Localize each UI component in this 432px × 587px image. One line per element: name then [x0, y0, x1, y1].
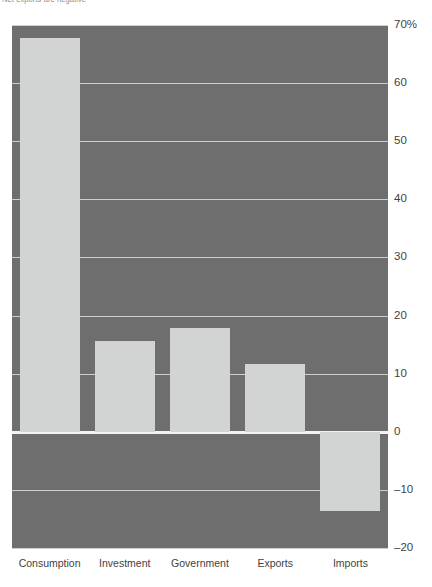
y-axis-label: 0 [394, 426, 400, 438]
y-axis-label: 30 [394, 251, 407, 263]
x-axis-label-investment: Investment [87, 558, 162, 569]
gridline [12, 548, 388, 549]
y-axis-label: 70% [394, 19, 417, 31]
y-axis-label: –20 [394, 542, 413, 554]
y-axis-label: 10 [394, 368, 407, 380]
gridline [12, 25, 388, 26]
x-axis-label-imports: Imports [313, 558, 388, 569]
bar-chart: 70%6050403020100–10–20 ConsumptionInvest… [0, 0, 432, 587]
bar-government [170, 328, 230, 432]
bar-imports [320, 432, 380, 512]
bar-investment [95, 341, 155, 432]
bar-exports [245, 364, 305, 432]
plot-area [12, 25, 388, 548]
x-axis-label-government: Government [162, 558, 237, 569]
y-axis-label: 20 [394, 310, 407, 322]
y-axis-label: 50 [394, 135, 407, 147]
bar-consumption [20, 38, 80, 432]
x-axis-label-exports: Exports [238, 558, 313, 569]
y-axis-label: 40 [394, 193, 407, 205]
y-axis-label: –10 [394, 484, 413, 496]
y-axis-label: 60 [394, 77, 407, 89]
x-axis-label-consumption: Consumption [12, 558, 87, 569]
